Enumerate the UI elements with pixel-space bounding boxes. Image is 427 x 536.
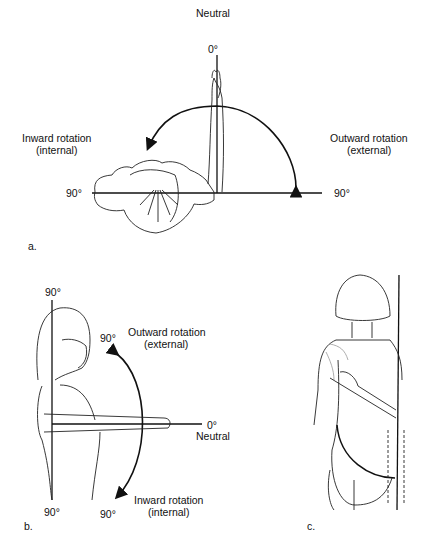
neutral-label-a: Neutral xyxy=(196,7,230,19)
rotation-arc-arrow-b xyxy=(117,354,143,497)
zero-degree-label-a: 0° xyxy=(208,43,218,55)
panel-a-figure xyxy=(92,55,322,233)
panel-a-label: a. xyxy=(28,240,37,252)
outward-rotation-title-b: Outward rotation xyxy=(128,326,206,338)
top-90-label-b: 90° xyxy=(45,286,61,298)
right-90-label-a: 90° xyxy=(334,187,350,199)
panel-c-label: c. xyxy=(307,520,315,532)
left-90-label-a: 90° xyxy=(66,187,82,199)
inward-rotation-sub-b: (internal) xyxy=(148,506,189,518)
outward-rotation-sub-a: (external) xyxy=(347,144,391,156)
arc-top-90-label-b: 90° xyxy=(100,332,116,344)
inward-rotation-title-a: Inward rotation xyxy=(22,132,91,144)
panel-b-label: b. xyxy=(24,520,33,532)
arc-bottom-90-label-b: 90° xyxy=(100,508,116,520)
neutral-label-b: Neutral xyxy=(196,430,230,442)
inward-rotation-sub-a: (internal) xyxy=(36,144,77,156)
bottom-90-label-b: 90° xyxy=(44,506,60,518)
panel-c-figure xyxy=(314,275,404,510)
rotation-arc-arrow xyxy=(148,106,296,188)
diagram-canvas xyxy=(0,0,427,536)
inward-rotation-title-b: Inward rotation xyxy=(134,494,203,506)
outward-rotation-sub-b: (external) xyxy=(144,338,188,350)
outward-rotation-title-a: Outward rotation xyxy=(330,132,408,144)
vertical-axis-line-c xyxy=(397,275,399,510)
